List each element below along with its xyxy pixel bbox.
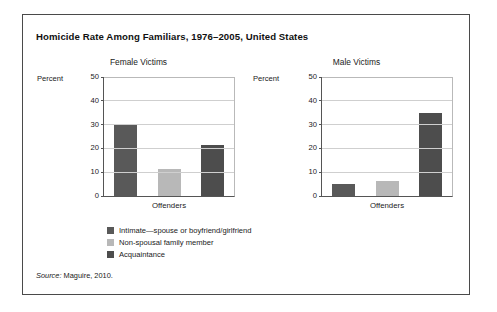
gridline-female-30 xyxy=(104,124,234,125)
chart-panel-female-victims: Female Victims Percent Offenders 0102030… xyxy=(31,57,246,217)
y-tick-mark-female-40 xyxy=(101,100,104,101)
y-tick-mark-male-0 xyxy=(319,196,322,197)
y-tick-female-40: 40 xyxy=(91,97,99,105)
y-tick-male-20: 20 xyxy=(309,145,317,153)
plot-area-male: Offenders 01020304050 xyxy=(321,77,453,197)
figure-frame: Homicide Rate Among Familiars, 1976–2005… xyxy=(22,14,470,295)
y-tick-mark-female-10 xyxy=(101,172,104,173)
legend-item-0: Intimate—spouse or boyfriend/girlfriend xyxy=(107,224,252,236)
legend-label-2: Acquaintance xyxy=(119,250,165,259)
legend-swatch-1 xyxy=(107,239,114,246)
legend-swatch-0 xyxy=(107,227,114,234)
y-tick-female-50: 50 xyxy=(91,73,99,81)
bar-male-2 xyxy=(419,113,442,196)
y-tick-mark-male-30 xyxy=(319,124,322,125)
bar-male-1 xyxy=(376,181,399,196)
gridline-female-10 xyxy=(104,172,234,173)
y-tick-mark-male-50 xyxy=(319,77,322,78)
y-tick-mark-female-30 xyxy=(101,124,104,125)
gridline-male-30 xyxy=(322,124,452,125)
x-axis-label-female: Offenders xyxy=(104,201,234,210)
y-tick-mark-male-10 xyxy=(319,172,322,173)
gridline-female-50 xyxy=(104,77,234,78)
chart-legend: Intimate—spouse or boyfriend/girlfriendN… xyxy=(107,224,252,260)
source-label: Source: xyxy=(36,271,61,280)
legend-item-2: Acquaintance xyxy=(107,248,252,260)
bars-female xyxy=(104,77,234,196)
y-tick-female-0: 0 xyxy=(95,192,99,200)
bars-male xyxy=(322,77,452,196)
bar-female-2 xyxy=(201,145,224,196)
y-tick-mark-female-50 xyxy=(101,77,104,78)
bar-female-0 xyxy=(114,125,137,196)
y-tick-male-0: 0 xyxy=(313,192,317,200)
y-tick-male-50: 50 xyxy=(309,73,317,81)
figure-title: Homicide Rate Among Familiars, 1976–2005… xyxy=(36,31,308,42)
y-tick-male-30: 30 xyxy=(309,121,317,129)
gridline-male-20 xyxy=(322,148,452,149)
legend-item-1: Non-spousal family member xyxy=(107,236,252,248)
y-tick-female-10: 10 xyxy=(91,168,99,176)
bar-female-1 xyxy=(158,169,181,196)
y-tick-mark-female-0 xyxy=(101,196,104,197)
plot-area-female: Offenders 01020304050 xyxy=(103,77,235,197)
y-tick-male-40: 40 xyxy=(309,97,317,105)
y-axis-label-male: Percent xyxy=(253,74,279,83)
y-tick-male-10: 10 xyxy=(309,168,317,176)
gridline-female-40 xyxy=(104,100,234,101)
legend-swatch-2 xyxy=(107,251,114,258)
x-axis-label-male: Offenders xyxy=(322,201,452,210)
chart-panel-male-victims: Male Victims Percent Offenders 010203040… xyxy=(249,57,464,217)
gridline-male-10 xyxy=(322,172,452,173)
source-note: Source: Maguire, 2010. xyxy=(36,271,113,280)
legend-label-0: Intimate—spouse or boyfriend/girlfriend xyxy=(119,226,252,235)
y-tick-female-20: 20 xyxy=(91,145,99,153)
y-tick-female-30: 30 xyxy=(91,121,99,129)
y-axis-label-female: Percent xyxy=(37,74,63,83)
legend-label-1: Non-spousal family member xyxy=(119,238,214,247)
y-tick-mark-female-20 xyxy=(101,148,104,149)
y-tick-mark-male-40 xyxy=(319,100,322,101)
panel-title-male: Male Victims xyxy=(249,57,464,67)
bar-male-0 xyxy=(332,184,355,196)
gridline-male-50 xyxy=(322,77,452,78)
gridline-male-40 xyxy=(322,100,452,101)
gridline-female-20 xyxy=(104,148,234,149)
y-tick-mark-male-20 xyxy=(319,148,322,149)
source-citation: Maguire, 2010. xyxy=(61,271,112,280)
panel-title-female: Female Victims xyxy=(31,57,246,67)
